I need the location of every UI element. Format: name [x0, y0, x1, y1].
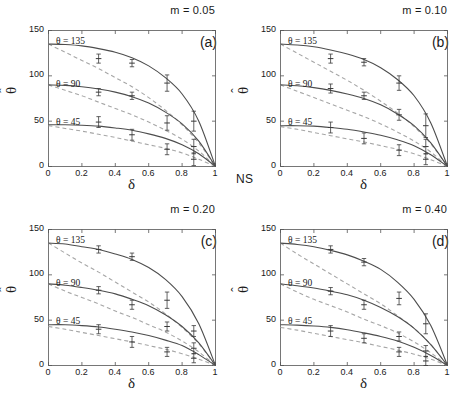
y-tick-label: 100 [29, 69, 44, 79]
y-tick-label: 50 [34, 115, 44, 125]
panel-c-label-theta90: θ = 90 [56, 278, 80, 288]
y-tick-label: 150 [29, 223, 44, 233]
panel-b-y-ticks: 050100150 [250, 30, 276, 166]
y-tick-label: 100 [29, 268, 44, 278]
panel-a-y-ticks: 050100150 [18, 30, 44, 166]
y-tick-label: 100 [261, 69, 276, 79]
panel-a-label-theta135: θ = 135 [56, 36, 85, 46]
panel-c-axes [48, 229, 215, 365]
panel-b-x-axis-title: δ [280, 176, 447, 193]
panel-a-x-axis-title: δ [48, 176, 215, 193]
y-tick-label: 150 [261, 223, 276, 233]
panel-d: m = 0.40 (d) 050100150 00.20.40.60.81 δ … [232, 199, 463, 398]
panel-d-label-theta135: θ = 135 [288, 235, 317, 245]
y-tick-label: 150 [261, 24, 276, 34]
y-tick-label: 0 [39, 359, 44, 369]
panel-c: m = 0.20 (c) 050100150 00.20.40.60.81 δ … [0, 199, 231, 398]
panel-d-y-axis-title: ˆθ [235, 286, 252, 293]
y-tick-label: 0 [271, 359, 276, 369]
panel-c-label-theta135: θ = 135 [56, 235, 85, 245]
panel-b-label-theta135: θ = 135 [288, 36, 317, 46]
panel-b-y-axis-title: ˆθ [235, 87, 252, 94]
y-tick-label: 150 [29, 24, 44, 34]
figure-root: m = 0.05 (a) 050100150 00.20.40.60.81 δ … [0, 0, 463, 398]
panel-d-x-axis-title: δ [280, 375, 447, 392]
panel-c-title: m = 0.20 [170, 203, 215, 215]
panel-c-y-axis-title: ˆθ [3, 286, 20, 293]
y-tick-label: 50 [34, 314, 44, 324]
panel-b: m = 0.10 (b) 050100150 00.20.40.60.81 δ … [232, 0, 463, 199]
panel-c-x-axis-title: δ [48, 375, 215, 392]
panel-d-label-theta45: θ = 45 [288, 316, 312, 326]
panel-d-label-theta90: θ = 90 [288, 278, 312, 288]
y-tick-label: 50 [266, 115, 276, 125]
panel-a-y-axis-title: ˆθ [3, 87, 20, 94]
y-tick-label: 0 [39, 160, 44, 170]
panel-d-y-ticks: 050100150 [250, 229, 276, 365]
y-tick-label: 100 [261, 268, 276, 278]
panel-a-axes [48, 30, 215, 166]
panel-b-axes [280, 30, 447, 166]
y-tick-label: 50 [266, 314, 276, 324]
panel-a-label-theta90: θ = 90 [56, 79, 80, 89]
panel-d-axes [280, 229, 447, 365]
panel-a: m = 0.05 (a) 050100150 00.20.40.60.81 δ … [0, 0, 231, 199]
ns-label: NS [236, 172, 253, 186]
panel-a-title: m = 0.05 [170, 4, 215, 16]
panel-c-y-ticks: 050100150 [18, 229, 44, 365]
panel-c-label-theta45: θ = 45 [56, 316, 80, 326]
panel-b-title: m = 0.10 [402, 4, 447, 16]
y-tick-label: 0 [271, 160, 276, 170]
panel-d-title: m = 0.40 [402, 203, 447, 215]
panel-b-label-theta45: θ = 45 [288, 117, 312, 127]
panel-a-label-theta45: θ = 45 [56, 117, 80, 127]
panel-b-label-theta90: θ = 90 [288, 79, 312, 89]
